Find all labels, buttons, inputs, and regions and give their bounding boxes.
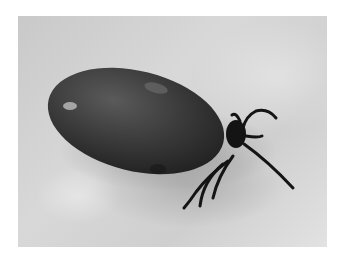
photo (18, 16, 327, 247)
tick-illustration (18, 16, 327, 247)
body-highlight (63, 102, 77, 110)
